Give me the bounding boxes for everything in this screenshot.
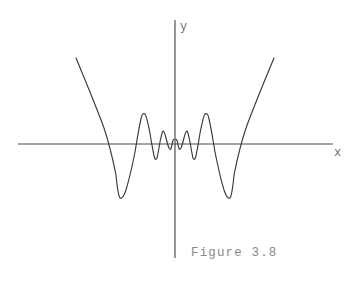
x-axis-label: x xyxy=(334,147,341,159)
figure-caption: Figure 3.8 xyxy=(191,247,278,260)
function-curve-left xyxy=(76,58,174,198)
plot-canvas xyxy=(0,0,350,282)
figure-container: y x Figure 3.8 xyxy=(0,0,350,282)
y-axis-label: y xyxy=(180,21,187,33)
function-curve-right xyxy=(176,58,274,198)
